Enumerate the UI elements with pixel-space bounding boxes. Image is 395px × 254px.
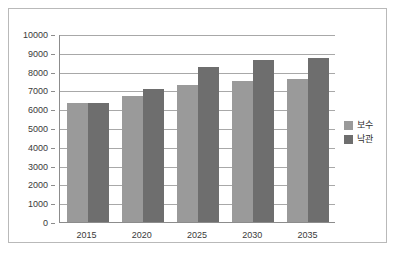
y-tick-mark [51,223,55,224]
y-tick-label: 2000 [9,181,48,190]
legend-label: 보수 [357,120,373,130]
legend-label: 낙관 [357,134,373,144]
legend-swatch-icon [344,121,353,130]
x-tick-label: 2015 [59,231,114,240]
bar-group [287,35,329,222]
y-tick-mark [51,54,55,55]
x-tick-label: 2035 [280,231,335,240]
legend-item[interactable]: 낙관 [344,132,384,146]
y-tick-label: 10000 [9,31,48,40]
legend-item[interactable]: 보수 [344,118,384,132]
y-tick-mark [51,129,55,130]
bar[interactable] [67,103,88,222]
bar[interactable] [308,58,329,223]
bar-group [177,35,219,222]
bar[interactable] [143,89,164,222]
bar[interactable] [177,85,198,222]
y-tick-mark [51,110,55,111]
x-tick-label: 2020 [114,231,169,240]
x-tick-label: 2025 [169,231,224,240]
y-tick-mark [51,73,55,74]
bar[interactable] [88,103,109,222]
y-tick-mark [51,185,55,186]
y-tick-mark [51,148,55,149]
chart-frame: 보수낙관 10000900080007000600050004000300020… [8,8,387,243]
y-tick-mark [51,35,55,36]
y-tick-label: 6000 [9,106,48,115]
bar[interactable] [232,81,253,222]
bar[interactable] [122,96,143,222]
chart-screenshot: 보수낙관 10000900080007000600050004000300020… [0,0,395,254]
bar[interactable] [198,67,219,222]
bar[interactable] [253,60,274,222]
y-tick-label: 1000 [9,200,48,209]
y-tick-label: 9000 [9,50,48,59]
y-tick-label: 5000 [9,125,48,134]
y-tick-mark [51,167,55,168]
bar-group [122,35,164,222]
plot-area [59,35,335,223]
bar[interactable] [287,79,308,222]
y-tick-label: 8000 [9,69,48,78]
y-tick-label: 3000 [9,163,48,172]
x-tick-label: 2030 [225,231,280,240]
y-tick-mark [51,91,55,92]
bar-group [67,35,109,222]
y-tick-mark [51,204,55,205]
chart-legend: 보수낙관 [342,115,386,149]
y-tick-label: 7000 [9,87,48,96]
y-tick-label: 4000 [9,144,48,153]
y-tick-label: 0 [9,219,48,228]
bar-group [232,35,274,222]
legend-swatch-icon [344,135,353,144]
